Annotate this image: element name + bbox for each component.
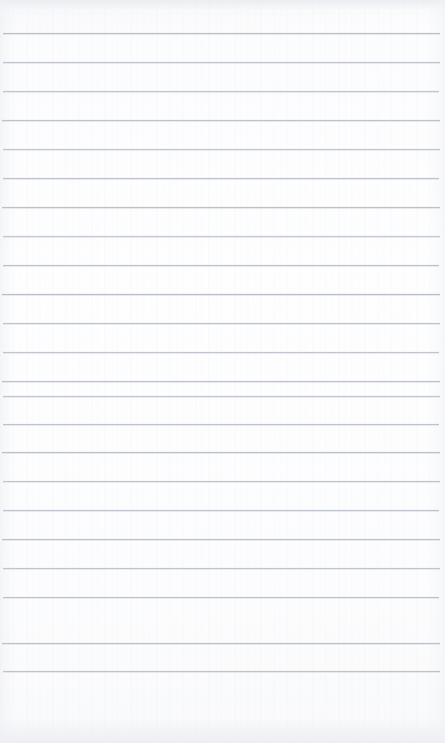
notepad-page <box>0 0 445 743</box>
page-content-text <box>0 0 1 1</box>
writing-area[interactable] <box>0 0 445 743</box>
